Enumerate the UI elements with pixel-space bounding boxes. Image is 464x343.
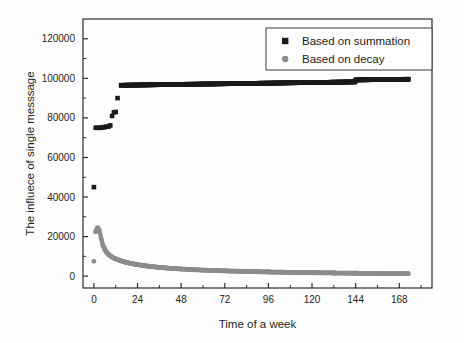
legend-marker-square-icon [282,38,288,44]
data-point [113,110,118,115]
y-tick-label: 80000 [47,112,75,123]
x-axis-title: Time of a week [219,318,297,330]
x-tick-label: 96 [263,294,275,305]
y-axis-title: The influece of single messsage [24,71,36,235]
series-based-on-decay [92,225,411,276]
chart-figure: 0200004000060000800001000001200000244872… [0,0,464,343]
data-point [92,185,97,190]
y-tick-label: 0 [69,271,75,282]
x-tick-label: 168 [391,294,408,305]
data-point [115,96,120,101]
data-point [108,123,113,128]
legend-label: Based on decay [302,53,385,65]
y-tick-label: 60000 [47,152,75,163]
x-tick-label: 48 [176,294,188,305]
y-tick-label: 20000 [47,231,75,242]
data-point [92,259,97,264]
legend-label: Based on summation [302,35,410,47]
x-tick-label: 0 [91,294,97,305]
y-tick-label: 120000 [42,33,76,44]
axis-tick-labels: 0200004000060000800001000001200000244872… [42,33,408,305]
axis-ticks [83,39,421,288]
x-tick-label: 24 [132,294,144,305]
legend-marker-circle-icon [282,56,288,62]
y-tick-label: 100000 [42,73,76,84]
scatter-plot: 0200004000060000800001000001200000244872… [0,0,464,343]
data-point [405,271,410,276]
series-based-on-summation [92,77,411,189]
chart-legend[interactable]: Based on summationBased on decay [266,28,432,70]
x-tick-label: 144 [347,294,364,305]
data-point [406,77,411,82]
x-tick-label: 120 [304,294,321,305]
x-tick-label: 72 [219,294,231,305]
y-tick-label: 40000 [47,192,75,203]
